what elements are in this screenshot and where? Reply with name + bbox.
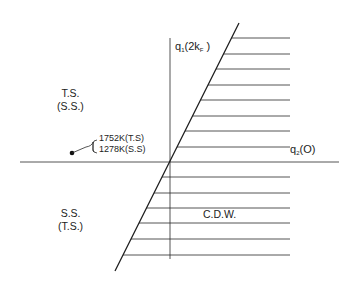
annotation-line-singlet: 1278K(S.S)	[99, 144, 146, 155]
transition-temperature-annotation: 1752K(T.S) 1278K(S.S)	[99, 133, 146, 155]
region-label-lower-left: S.S. (T.S.)	[58, 207, 83, 233]
region-label-upper-left: T.S. (S.S.)	[57, 87, 84, 113]
region-label-cdw: C.D.W.	[203, 208, 236, 220]
annotation-line-triplet: 1752K(T.S)	[99, 133, 146, 144]
annotation-leader	[72, 142, 94, 153]
vertical-axis-label: q1(2kF )	[175, 40, 210, 56]
horizontal-axis-label: q2(O)	[290, 143, 315, 159]
annotation-brace	[93, 140, 97, 153]
